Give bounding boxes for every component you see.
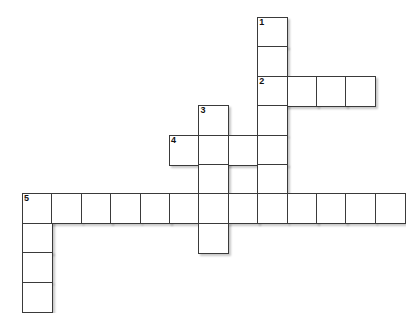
crossword-cell[interactable] — [81, 193, 112, 224]
crossword-cell[interactable] — [198, 223, 229, 254]
crossword-cell[interactable] — [198, 164, 229, 195]
crossword-cell[interactable] — [169, 193, 200, 224]
crossword-cell[interactable] — [287, 193, 318, 224]
crossword-cell-start-2[interactable]: 2 — [257, 76, 288, 107]
cell-number-2: 2 — [259, 76, 264, 86]
crossword-cell[interactable] — [22, 282, 53, 313]
crossword-cell[interactable] — [22, 223, 53, 254]
crossword-cell[interactable] — [345, 193, 376, 224]
crossword-cell[interactable] — [228, 135, 259, 166]
crossword-cell[interactable] — [345, 76, 376, 107]
cell-number-4: 4 — [171, 135, 176, 145]
crossword-cell[interactable] — [316, 76, 347, 107]
crossword-cell[interactable] — [51, 193, 82, 224]
cell-number-5: 5 — [24, 193, 29, 203]
crossword-cell[interactable] — [257, 193, 288, 224]
crossword-cell[interactable] — [110, 193, 141, 224]
crossword-cell[interactable] — [287, 76, 318, 107]
crossword-cell[interactable] — [140, 193, 171, 224]
crossword-cell[interactable] — [257, 135, 288, 166]
crossword-cell[interactable] — [22, 252, 53, 283]
crossword-cell[interactable] — [257, 105, 288, 136]
crossword-cell[interactable] — [198, 193, 229, 224]
crossword-cell[interactable] — [375, 193, 406, 224]
cell-number-1: 1 — [259, 17, 264, 27]
crossword-cell[interactable] — [257, 46, 288, 77]
crossword-cell-start-1[interactable]: 1 — [257, 17, 288, 48]
crossword-cell[interactable] — [316, 193, 347, 224]
crossword-cell[interactable] — [228, 193, 259, 224]
crossword-cell[interactable] — [257, 164, 288, 195]
crossword-cell[interactable] — [198, 135, 229, 166]
crossword-cell-start-3[interactable]: 3 — [198, 105, 229, 136]
cell-number-3: 3 — [200, 105, 205, 115]
crossword-cell-start-5[interactable]: 5 — [22, 193, 53, 224]
crossword-cell-start-4[interactable]: 4 — [169, 135, 200, 166]
